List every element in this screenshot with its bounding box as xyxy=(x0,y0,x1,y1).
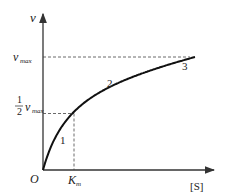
half-vmax-num: 1 xyxy=(17,94,22,105)
origin-label: O xyxy=(30,172,39,186)
mm-chart: v[S]Ovmax12vmaxKm123 xyxy=(0,0,236,196)
x-axis-label: [S] xyxy=(190,180,203,192)
half-vmax-den: 2 xyxy=(17,106,22,117)
vmax-label: v xyxy=(13,50,19,64)
y-axis-label: v xyxy=(30,10,36,25)
region-label-1: 1 xyxy=(60,134,66,146)
km-label-sub: m xyxy=(76,180,81,188)
region-label-2: 2 xyxy=(107,77,113,89)
region-label-3: 3 xyxy=(182,60,188,72)
vmax-label-sub: max xyxy=(20,57,33,65)
half-vmax-label-sub: max xyxy=(32,107,45,115)
half-vmax-label: v xyxy=(25,100,31,114)
